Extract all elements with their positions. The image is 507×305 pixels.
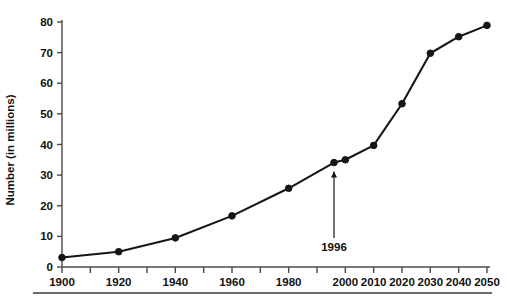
x-axis-tick-label: 2050: [474, 276, 500, 288]
x-axis-tick-label: 2040: [446, 276, 472, 288]
y-axis-tick-label: 40: [40, 139, 53, 151]
x-axis-tick-label: 1920: [106, 276, 132, 288]
y-axis-tick-label: 80: [40, 16, 53, 28]
y-axis-tick-label: 0: [47, 261, 53, 273]
x-axis-tick-label: 2020: [389, 276, 415, 288]
data-point-marker: [229, 213, 236, 220]
data-point-marker: [342, 157, 349, 164]
data-point-marker: [331, 159, 338, 166]
y-axis-tick-label: 50: [40, 108, 53, 120]
data-point-marker: [370, 142, 377, 149]
y-axis-tick-label: 20: [40, 200, 53, 212]
x-axis-tick-label: 2000: [333, 276, 359, 288]
data-point-marker: [285, 185, 292, 192]
data-point-marker: [427, 50, 434, 57]
y-axis-tick-label: 70: [40, 47, 53, 59]
x-axis-tick-label: 2030: [418, 276, 444, 288]
data-point-marker: [115, 248, 122, 255]
chart-background: [0, 0, 507, 305]
y-axis-tick-label: 30: [40, 169, 53, 181]
x-axis-tick-label: 1960: [219, 276, 245, 288]
y-axis-title: Number (in millions): [4, 94, 16, 205]
x-axis-tick-label: 1940: [163, 276, 189, 288]
x-axis-tick-label: 1900: [49, 276, 75, 288]
line-chart: 01020304050607080 1900192019401960198020…: [0, 0, 507, 305]
x-axis-tick-label: 1980: [276, 276, 302, 288]
x-axis-tick-label: 2010: [361, 276, 387, 288]
data-point-marker: [59, 254, 66, 261]
y-axis-tick-label: 60: [40, 77, 53, 89]
data-point-marker: [399, 100, 406, 107]
annotation-label: 1996: [321, 241, 347, 253]
chart-canvas: 01020304050607080 1900192019401960198020…: [0, 0, 507, 305]
data-point-marker: [172, 235, 179, 242]
data-point-marker: [455, 33, 462, 40]
y-axis-tick-label: 10: [40, 230, 53, 242]
data-point-marker: [484, 22, 491, 29]
